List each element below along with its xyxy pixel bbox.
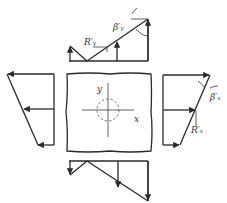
top-angle-label: β′ᵧ xyxy=(112,22,124,32)
top-stress-distribution xyxy=(69,8,148,61)
bottom-stress-distribution xyxy=(69,161,148,201)
axis-y-label: y xyxy=(96,84,103,94)
right-angle-label: β′ₓ xyxy=(209,92,221,102)
left-stress-distribution xyxy=(7,74,54,145)
axis-x-label: x xyxy=(134,114,139,124)
stress-diagram: β′ᵧ R′ᵧ y x β′ₓ R′ₓ xyxy=(0,0,227,203)
right-force-label: R′ₓ xyxy=(190,125,204,135)
top-force-label: R′ᵧ xyxy=(83,37,97,47)
plate-element xyxy=(66,73,152,152)
